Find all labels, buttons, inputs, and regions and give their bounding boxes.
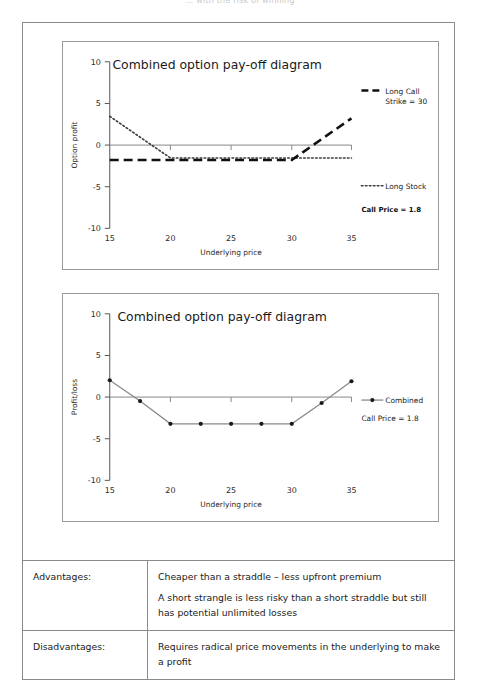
chart-1-legend-label-long-call: Long Call [385,87,419,96]
chart-2-xlabel-30: 30 [287,486,297,495]
chart-1-ylabel-5: 5 [96,99,101,108]
running-header-text: … with the risk of winning [0,0,480,5]
chart-2-xlabel-20: 20 [165,486,175,495]
row-label-advantages: Advantages: [23,561,148,631]
chart-1-series-long-stock [110,116,352,158]
chart-2-xlabel-25: 25 [226,486,236,495]
chart-1-svg: Combined option pay-off diagram 10 5 0 -… [63,42,438,269]
chart-1-xlabel-35: 35 [346,234,356,243]
chart-1-xlabel-30: 30 [287,234,297,243]
chart-1-legend-sublabel-strike: Strike = 30 [385,97,427,106]
chart-1-x-axis-title: Underlying price [200,248,262,257]
chart-1-xlabel-20: 20 [165,234,175,243]
chart-2-ylabel-neg5: -5 [93,435,101,444]
table-row: Disadvantages: Requires radical price mo… [23,631,455,680]
chart-2-call-price-note: Call Price = 1.8 [361,414,419,423]
chart-2-container: Combined option pay-off diagram 10 5 0 -… [62,293,439,522]
chart-2-xlabel-15: 15 [105,486,115,495]
chart-2-y-axis-title: Profit/loss [70,379,79,415]
chart-2-legend-swatch-marker [370,398,374,402]
advantage-item-2: A short strangle is less risky than a sh… [158,591,444,620]
chart-1-ylabel-neg10: -10 [88,224,101,233]
table-row: Advantages: Cheaper than a straddle – le… [23,561,455,631]
chart-1-series-long-call [110,118,352,160]
chart-1-xlabel-25: 25 [226,234,236,243]
row-content-disadvantages: Requires radical price movements in the … [148,631,455,680]
row-label-disadvantages: Disadvantages: [23,631,148,680]
page-running-header: … with the risk of winning [0,0,480,10]
chart-2-x-axis-title: Underlying price [200,500,262,509]
chart-1-xlabel-15: 15 [105,234,115,243]
chart-1-container: Combined option pay-off diagram 10 5 0 -… [62,41,439,270]
chart-1-call-price-note: Call Price = 1.8 [361,207,421,215]
chart-1-ylabel-neg5: -5 [93,183,101,192]
chart-2-svg: Combined option pay-off diagram 10 5 0 -… [63,294,438,521]
chart-1-legend-label-long-stock: Long Stock [385,182,427,191]
row-content-advantages: Cheaper than a straddle – less upfront p… [148,561,455,631]
chart-1-y-axis-title: Option profit [70,122,79,169]
chart-2-ylabel-10: 10 [91,310,101,319]
chart-2-ylabel-0: 0 [96,393,101,402]
disadvantage-item-1: Requires radical price movements in the … [158,640,444,669]
chart-2-ylabel-neg10: -10 [88,476,101,485]
chart-1-ylabel-10: 10 [91,58,101,67]
chart-2-title: Combined option pay-off diagram [117,309,327,324]
chart-1-ylabel-0: 0 [96,141,101,150]
advantage-item-1: Cheaper than a straddle – less upfront p… [158,570,444,584]
pros-cons-table: Advantages: Cheaper than a straddle – le… [22,560,455,680]
chart-2-legend-label-combined: Combined [385,396,423,405]
chart-2-xlabel-35: 35 [346,486,356,495]
chart-1-title: Combined option pay-off diagram [112,57,322,72]
chart-2-ylabel-5: 5 [96,351,101,360]
